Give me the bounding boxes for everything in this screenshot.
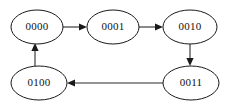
- arrowhead-0010-0011: [186, 58, 193, 66]
- edge-0010-to-0011: [186, 44, 193, 66]
- node-0000[interactable]: 0000: [11, 10, 63, 44]
- node-0001[interactable]: 0001: [87, 10, 139, 44]
- arrowhead-0000-0001: [79, 23, 87, 30]
- arrowhead-0011-0100: [67, 79, 75, 86]
- node-label-0010: 0010: [179, 20, 202, 32]
- node-0011[interactable]: 0011: [163, 66, 219, 100]
- node-0100[interactable]: 0100: [11, 66, 67, 100]
- edge-0001-to-0010: [139, 23, 163, 30]
- node-label-0011: 0011: [180, 76, 202, 88]
- edge-0000-to-0001: [63, 23, 87, 30]
- node-label-0100: 0100: [28, 76, 51, 88]
- node-label-0001: 0001: [102, 20, 125, 32]
- edge-0100-to-0000: [31, 43, 38, 66]
- edge-0011-to-0100: [67, 79, 163, 86]
- state-diagram-canvas: 0000 0001 0010 0100 0011: [0, 0, 230, 103]
- arrowhead-0001-0010: [155, 23, 163, 30]
- state-transition-graph: 0000 0001 0010 0100 0011: [0, 0, 230, 103]
- node-0010[interactable]: 0010: [163, 10, 217, 44]
- node-label-0000: 0000: [26, 20, 49, 32]
